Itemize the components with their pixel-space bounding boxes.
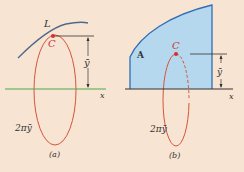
x-axis-label-b: x xyxy=(229,92,234,101)
curve-label-l: L xyxy=(43,18,51,29)
centroid-label-a: C xyxy=(48,38,56,49)
pappus-theorem-diagram: L C ȳ x 2πȳ (a) A C ȳ x 2πȳ (b) xyxy=(0,0,244,172)
centroid-label-b: C xyxy=(172,40,180,51)
ybar-label-b: ȳ xyxy=(216,67,223,77)
ybar-label-a: ȳ xyxy=(83,57,90,68)
circumference-label-b: 2πȳ xyxy=(149,124,168,134)
x-axis-label-a: x xyxy=(100,91,105,100)
caption-a: (a) xyxy=(49,150,60,159)
area-label-a: A xyxy=(136,50,145,60)
caption-b: (b) xyxy=(169,151,180,160)
circumference-label-a: 2πȳ xyxy=(14,123,33,133)
area-region xyxy=(130,5,212,89)
centroid-dot-b xyxy=(174,52,178,56)
diagram-canvas: L C ȳ x 2πȳ (a) A C ȳ x 2πȳ (b) xyxy=(0,0,244,172)
revolution-ellipse-a xyxy=(34,35,76,145)
